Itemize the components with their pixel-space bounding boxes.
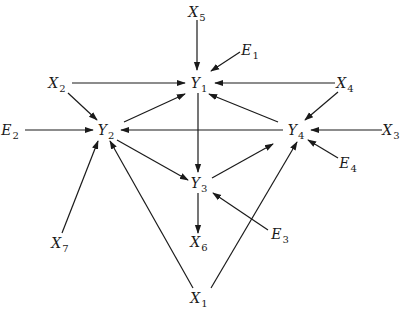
node-letter: X — [47, 75, 59, 91]
arrow-x1-to-y2 — [110, 141, 193, 288]
node-x1: X1 — [189, 290, 207, 309]
arrow-y2-to-y3 — [117, 140, 188, 180]
node-x6: X6 — [189, 234, 207, 253]
node-x7: X7 — [50, 235, 68, 254]
arrow-y2-to-y1 — [124, 94, 185, 122]
path-diagram: X5E1Y1X2X4E2Y2Y4X3E4Y3E3X6X7X1 — [0, 0, 407, 317]
arrow-y4-to-y1 — [209, 94, 278, 122]
node-subscript: 6 — [201, 242, 207, 253]
arrow-x4-to-y4 — [305, 92, 338, 120]
node-subscript: 4 — [298, 130, 304, 141]
node-e2: E2 — [0, 122, 19, 141]
node-subscript: 7 — [62, 243, 68, 254]
arrow-y3-to-y4 — [212, 144, 273, 178]
node-e1: E1 — [240, 42, 259, 61]
node-letter: X — [187, 4, 199, 20]
node-y4: Y4 — [288, 122, 305, 141]
arrow-x7-to-y2 — [62, 141, 98, 233]
arrow-e4-to-y4 — [308, 140, 338, 158]
node-subscript: 2 — [108, 130, 114, 141]
node-e4: E4 — [338, 155, 357, 174]
node-letter: E — [240, 42, 251, 58]
arrow-x1-to-y4 — [211, 142, 297, 288]
node-x2: X2 — [47, 75, 65, 94]
node-subscript: 2 — [59, 83, 65, 94]
node-letter: X — [50, 235, 62, 251]
node-subscript: 1 — [201, 83, 207, 94]
arrow-e3-to-y3 — [213, 193, 268, 230]
node-subscript: 3 — [201, 183, 207, 194]
node-letter: X — [381, 122, 393, 138]
node-letter: X — [335, 75, 347, 91]
nodes-group: X5E1Y1X2X4E2Y2Y4X3E4Y3E3X6X7X1 — [0, 4, 399, 309]
node-letter: X — [189, 234, 201, 250]
node-subscript: 3 — [282, 234, 288, 245]
node-letter: X — [189, 290, 201, 306]
arrow-e1-to-y1 — [211, 52, 240, 71]
node-subscript: 2 — [12, 130, 18, 141]
node-subscript: 5 — [199, 12, 205, 23]
arrow-x2-to-y2 — [68, 93, 97, 120]
node-y3: Y3 — [191, 175, 208, 194]
node-subscript: 3 — [393, 130, 399, 141]
node-letter: E — [338, 155, 349, 171]
node-x3: X3 — [381, 122, 399, 141]
node-subscript: 1 — [252, 50, 258, 61]
node-e3: E3 — [270, 226, 289, 245]
node-subscript: 4 — [350, 163, 356, 174]
node-y1: Y1 — [191, 75, 208, 94]
node-letter: E — [270, 226, 281, 242]
node-subscript: 4 — [347, 83, 353, 94]
node-y2: Y2 — [98, 122, 115, 141]
node-subscript: 1 — [201, 298, 207, 309]
node-letter: E — [0, 122, 11, 138]
node-x4: X4 — [335, 75, 353, 94]
